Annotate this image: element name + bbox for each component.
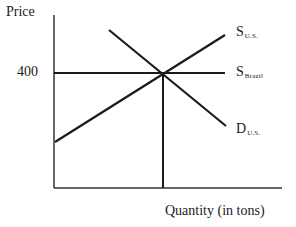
curve-label-d-us: DU.S.	[236, 121, 260, 137]
curve-label-main: S	[236, 64, 244, 79]
s-us-line	[55, 35, 225, 142]
curve-label-sub: U.S.	[245, 32, 258, 40]
curve-label-sub: Brazil	[245, 72, 263, 80]
curve-label-main: D	[236, 121, 246, 136]
y-tick-400: 400	[17, 64, 38, 80]
y-axis-title: Price	[6, 4, 35, 20]
curve-label-sub: U.S.	[247, 129, 260, 137]
x-axis-title: Quantity (in tons)	[165, 203, 265, 219]
curve-label-s-brazil: SBrazil	[236, 64, 263, 80]
curve-label-s-us: SU.S.	[236, 24, 258, 40]
curve-label-main: S	[236, 24, 244, 39]
supply-demand-chart: Price 400 Quantity (in tons) SU.S. SBraz…	[0, 0, 296, 227]
